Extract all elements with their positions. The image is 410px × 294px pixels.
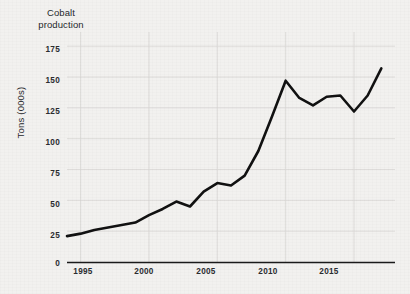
cobalt-production-chart: Cobalt production Tons (000s) 175 150 12… xyxy=(0,0,410,294)
plot-area xyxy=(0,0,410,294)
grid-lines xyxy=(67,32,395,262)
data-series-line xyxy=(67,68,381,236)
